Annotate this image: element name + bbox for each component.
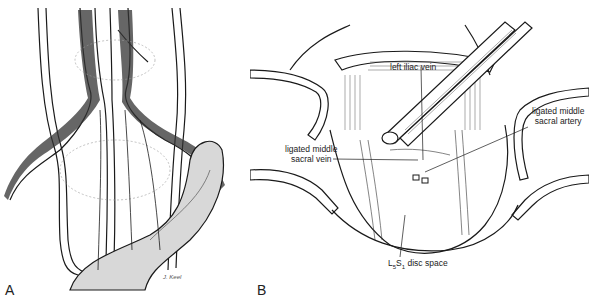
label-l5s1-disc-space: L5S1 disc space [388,258,448,272]
panel-b-illustration: left iliac vein ligated middle sacral ar… [250,0,589,302]
artist-signature: J. Keel [163,272,181,282]
label-artery-line1: ligated middle [532,106,584,116]
label-ligated-middle-sacral-artery: ligated middle sacral artery [532,106,584,126]
label-left-iliac-vein: left iliac vein [390,62,436,72]
label-ligated-middle-sacral-vein: ligated middle sacral vein [285,144,337,164]
panel-letter-b: B [257,282,266,298]
label-artery-line2: sacral artery [532,116,584,126]
label-vein-line1: ligated middle [285,144,337,154]
vessel-anatomy-drawing [0,0,240,302]
label-vein-line2: sacral vein [285,154,337,164]
disc-label-suffix: disc space [405,258,448,268]
panel-letter-a: A [5,282,14,298]
panel-a-illustration: A J. Keel [0,0,240,302]
